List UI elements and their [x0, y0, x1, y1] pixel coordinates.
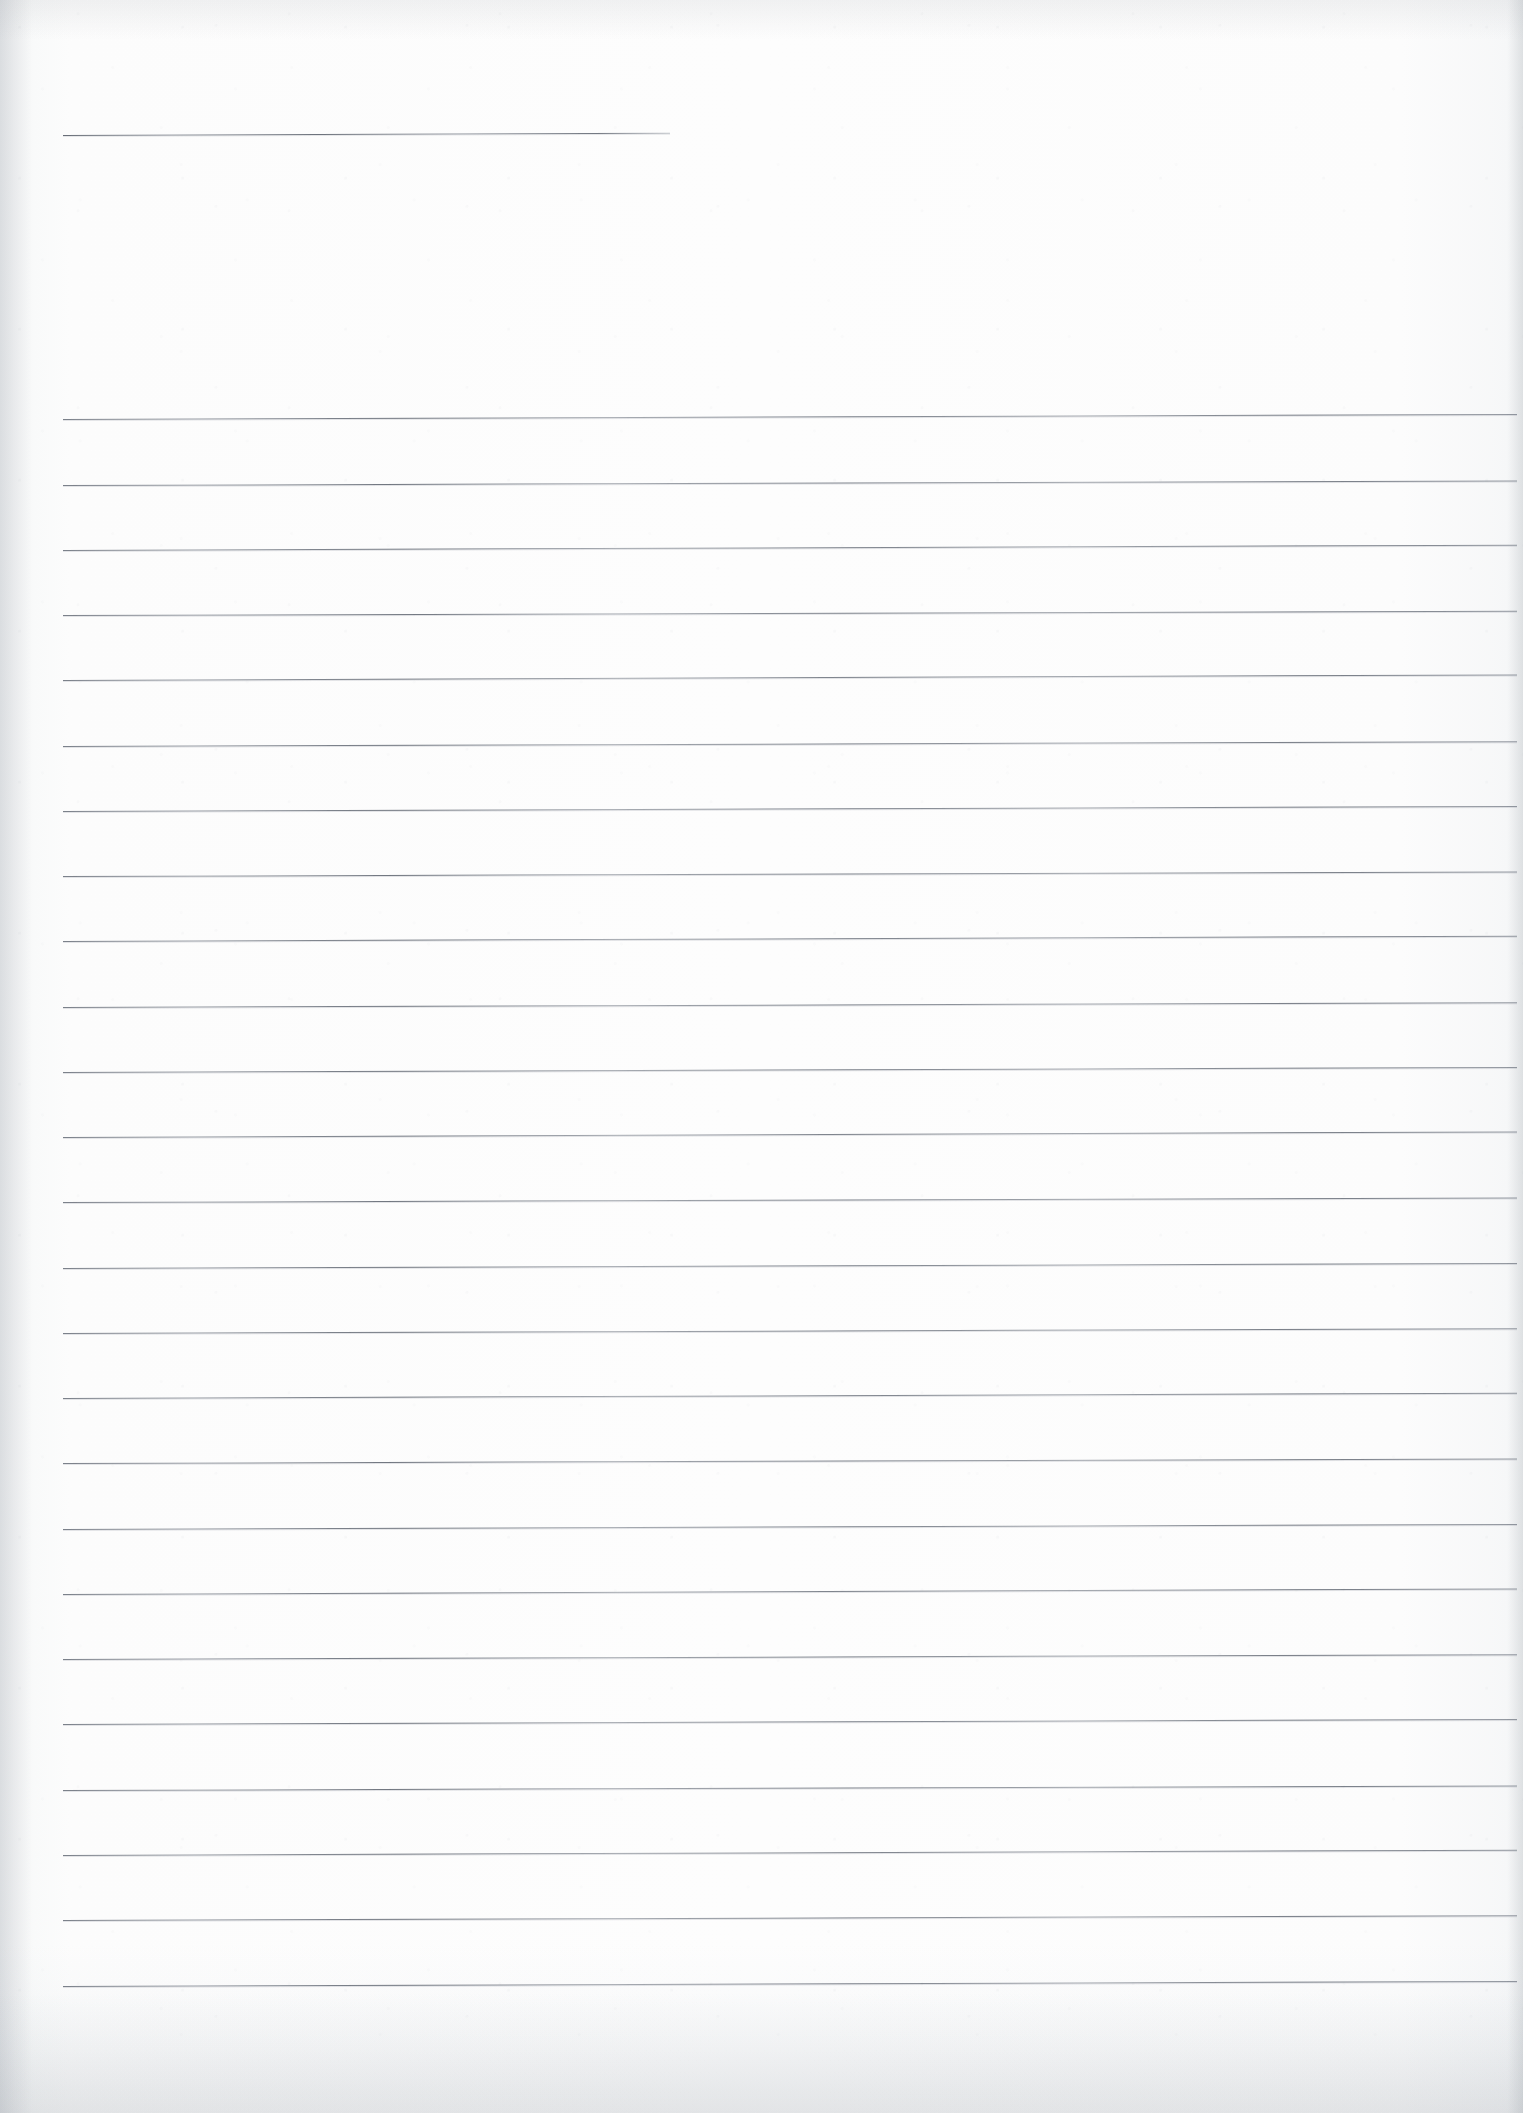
- paper-grain-texture: [0, 0, 1523, 2113]
- notebook-page: [0, 0, 1523, 2113]
